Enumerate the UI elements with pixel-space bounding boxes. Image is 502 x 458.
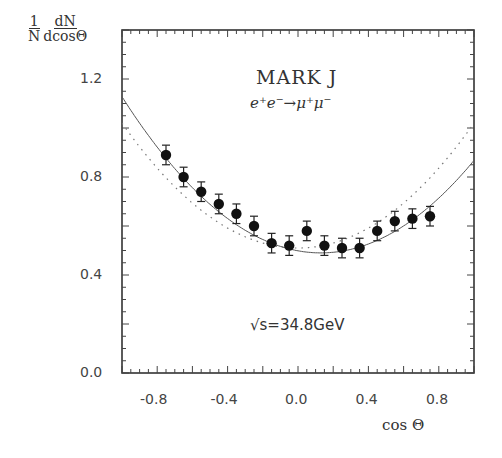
data-point	[372, 226, 382, 236]
x-tick-label: 0.4	[356, 391, 378, 407]
data-point	[249, 221, 259, 231]
data-point	[337, 243, 347, 253]
chart-subtitle: e⁺e⁻→μ⁺μ⁻	[250, 94, 332, 112]
data-point	[390, 216, 400, 226]
chart-title: MARK J	[256, 66, 337, 88]
y-tick-label: 0.0	[80, 364, 102, 380]
data-point	[319, 240, 329, 250]
x-tick-label: 0.8	[426, 391, 448, 407]
y-tick-label: 0.4	[80, 266, 102, 282]
chart-canvas	[0, 0, 502, 458]
x-tick-label: 0.0	[285, 391, 307, 407]
data-point	[178, 172, 188, 182]
data-point	[231, 209, 241, 219]
data-point	[284, 240, 294, 250]
data-point	[266, 238, 276, 248]
y-tick-label: 1.2	[80, 70, 102, 86]
x-tick-label: -0.8	[140, 391, 167, 407]
x-tick-label: -0.4	[210, 391, 237, 407]
y-tick-label: 0.8	[80, 168, 102, 184]
data-point	[196, 187, 206, 197]
data-point	[407, 213, 417, 223]
solid-curve-fit	[122, 97, 474, 253]
y-axis-label: 1N dNdcosΘ	[28, 14, 87, 43]
data-point	[425, 211, 435, 221]
data-point	[214, 199, 224, 209]
dotted-curve-qed	[122, 123, 474, 248]
data-point	[302, 226, 312, 236]
energy-annotation: √s=34.8GeV	[250, 316, 344, 334]
data-point	[161, 150, 171, 160]
data-point	[354, 243, 364, 253]
x-axis-label: cos Θ	[382, 416, 424, 434]
